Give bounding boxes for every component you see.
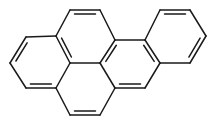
single-bond	[56, 10, 70, 36]
single-bond	[145, 10, 160, 40]
single-bond	[56, 63, 70, 88]
single-bond	[190, 10, 206, 36]
single-bond	[56, 88, 70, 115]
single-bond	[10, 63, 26, 88]
single-bond	[100, 63, 115, 88]
single-bond	[100, 88, 115, 115]
double-bond-inner	[144, 45, 155, 61]
double-bond-outer	[10, 37, 26, 63]
single-bond	[100, 10, 115, 40]
double-bond-inner	[62, 38, 72, 57]
single-bond	[26, 36, 56, 37]
bond-lines	[10, 10, 206, 115]
single-bond	[145, 63, 160, 88]
benzo-a-pyrene-structure	[0, 0, 215, 128]
double-bond-inner	[106, 45, 117, 61]
double-bond-outer	[190, 36, 206, 63]
